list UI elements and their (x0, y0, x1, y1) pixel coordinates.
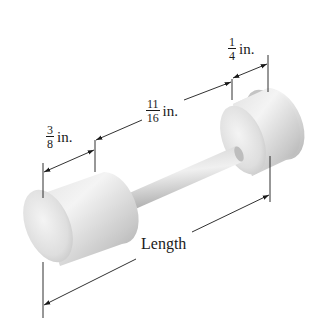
label-overall-length: Length (141, 236, 186, 252)
dim-length-b (192, 195, 269, 232)
dim-rod-a (96, 120, 142, 140)
label-right-end-width: 1 4 in. (228, 36, 254, 62)
dim-right-end (233, 64, 267, 78)
dim-length-a (44, 259, 136, 305)
fraction: 11 16 (146, 98, 160, 124)
label-left-end-width: 3 8 in. (46, 124, 72, 150)
connecting-rod (118, 145, 246, 214)
fraction: 3 8 (46, 124, 54, 150)
dim-rod-b (184, 82, 231, 100)
dumbbell-diagram (0, 0, 318, 327)
left-end-cylinder (13, 172, 138, 269)
fraction: 1 4 (228, 36, 236, 62)
dim-left-end (44, 150, 94, 172)
label-rod-length: 11 16 in. (146, 98, 178, 124)
